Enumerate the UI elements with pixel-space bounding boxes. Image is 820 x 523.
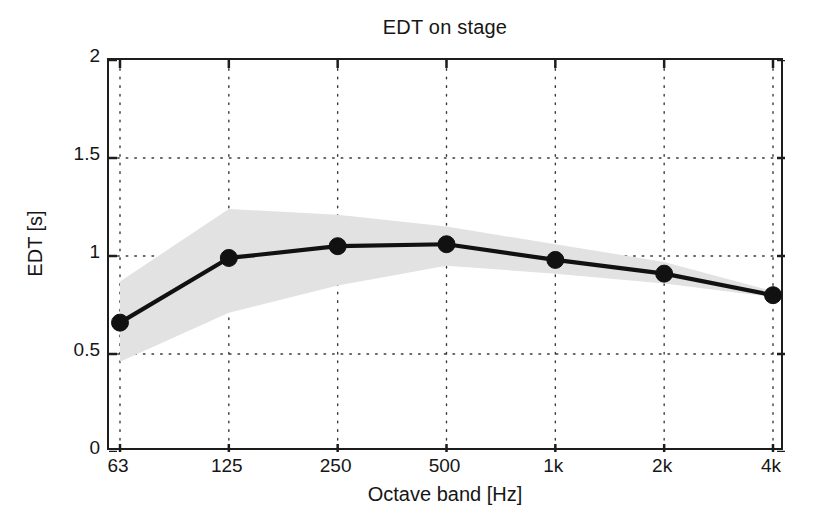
y-tick-label: 0.5 [54,339,100,361]
plot-canvas [109,60,785,452]
y-axis-title: EDT [s] [24,164,47,324]
chart-figure: EDT on stage 00.511.52 631252505001k2k4k… [0,0,820,523]
plot-area [107,58,783,450]
y-tick-label: 1.5 [54,143,100,165]
y-tick-label: 1 [54,241,100,263]
x-tick-label: 2k [622,455,702,477]
chart-title: EDT on stage [107,16,783,39]
x-tick-label: 4k [731,455,811,477]
x-tick-label: 63 [78,455,158,477]
x-tick-label: 250 [296,455,376,477]
y-axis-tick-labels: 00.511.52 [50,58,100,450]
x-tick-label: 125 [187,455,267,477]
y-tick-label: 2 [54,45,100,67]
x-tick-label: 1k [513,455,593,477]
x-axis-title: Octave band [Hz] [107,483,783,506]
x-axis-tick-labels: 631252505001k2k4k [107,455,783,481]
x-tick-label: 500 [405,455,485,477]
